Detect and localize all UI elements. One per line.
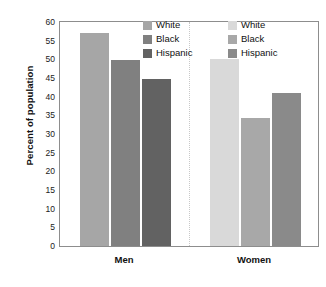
legend-label: Hispanic — [156, 48, 192, 58]
bar — [80, 33, 109, 246]
x-label-men: Men — [59, 254, 189, 265]
legend-row: White — [228, 19, 277, 31]
legend-swatch — [228, 49, 237, 58]
legend-row: Hispanic — [143, 47, 192, 59]
bar — [241, 118, 270, 246]
legend-label: White — [241, 20, 265, 30]
legend-swatch — [143, 35, 152, 44]
legend-label: White — [156, 20, 180, 30]
legend-label: Hispanic — [241, 48, 277, 58]
legend-swatch — [228, 21, 237, 30]
bar — [272, 93, 301, 246]
legend-women: WhiteBlackHispanic — [228, 19, 277, 59]
legend-label: Black — [241, 34, 264, 44]
bar — [210, 59, 239, 246]
legend-swatch — [143, 21, 152, 30]
legend-row: Hispanic — [228, 47, 277, 59]
legend-row: Black — [228, 33, 277, 45]
legend-row: White — [143, 19, 192, 31]
bar — [142, 79, 171, 246]
legend-swatch — [143, 49, 152, 58]
legend-row: Black — [143, 33, 192, 45]
figure: Percent of population 051015202530354045… — [0, 0, 326, 287]
legend-men: WhiteBlackHispanic — [143, 19, 192, 59]
legend-swatch — [228, 35, 237, 44]
x-label-women: Women — [189, 254, 319, 265]
bar — [111, 60, 140, 246]
legend-label: Black — [156, 34, 179, 44]
